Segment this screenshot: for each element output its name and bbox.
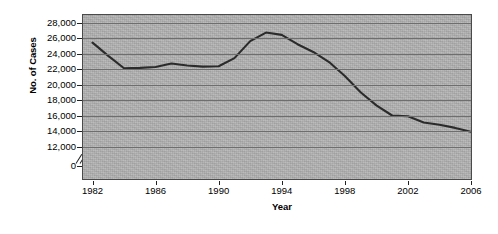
y-tick-label: 22,000 <box>30 64 76 74</box>
plot-area <box>82 14 472 180</box>
x-tick-label: 1990 <box>199 185 239 196</box>
x-tick-mark <box>93 181 94 185</box>
x-tick-mark <box>471 181 472 185</box>
gridline <box>83 147 471 148</box>
gridline <box>83 69 471 70</box>
y-tick-mark <box>77 85 82 86</box>
y-tick-mark <box>77 69 82 70</box>
gridline <box>83 131 471 132</box>
x-tick-mark <box>408 181 409 185</box>
x-tick-label: 2006 <box>451 185 491 196</box>
y-tick-label: 28,000 <box>30 18 76 28</box>
x-tick-mark <box>282 181 283 185</box>
caption-sliver <box>18 228 348 234</box>
gridline <box>83 54 471 55</box>
gridline <box>83 100 471 101</box>
x-tick-label: 2002 <box>388 185 428 196</box>
y-tick-mark <box>77 166 82 167</box>
y-tick-label: 20,000 <box>30 80 76 90</box>
y-tick-mark <box>77 131 82 132</box>
data-line-series <box>83 15 471 179</box>
y-tick-mark <box>77 54 82 55</box>
y-tick-label: 16,000 <box>30 111 76 121</box>
x-axis-tick-labels: 1982198619901994199820022006 <box>0 185 498 199</box>
y-tick-mark <box>77 147 82 148</box>
y-tick-label: 26,000 <box>30 33 76 43</box>
y-tick-mark <box>77 38 82 39</box>
x-tick-mark <box>219 181 220 185</box>
y-tick-label: 14,000 <box>30 126 76 136</box>
x-tick-label: 1994 <box>262 185 302 196</box>
x-tick-label: 1986 <box>136 185 176 196</box>
y-tick-label: 12,000 <box>30 142 76 152</box>
x-tick-label: 1998 <box>325 185 365 196</box>
x-axis-title: Year <box>0 201 498 212</box>
gridline <box>83 116 471 117</box>
y-tick-label: 0 <box>30 161 76 171</box>
x-tick-label: 1982 <box>73 185 113 196</box>
y-tick-label: 24,000 <box>30 49 76 59</box>
y-tick-label: 18,000 <box>30 95 76 105</box>
x-axis-title-text: Year <box>272 201 292 212</box>
x-tick-mark <box>345 181 346 185</box>
chart-figure: No. of Cases 28,00026,00024,00022,00020,… <box>0 0 498 234</box>
y-tick-mark <box>77 100 82 101</box>
gridline <box>83 38 471 39</box>
y-tick-mark <box>77 23 82 24</box>
gridline <box>83 23 471 24</box>
x-tick-mark <box>156 181 157 185</box>
gridline <box>83 85 471 86</box>
y-tick-mark <box>77 116 82 117</box>
